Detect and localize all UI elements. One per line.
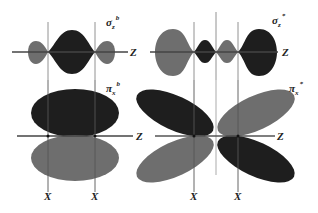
x-axis-label-left: X xyxy=(43,190,52,202)
lobe-gray-bottom xyxy=(31,135,119,181)
orbital-label: σz* xyxy=(272,12,286,29)
x-axis-label-left: X xyxy=(189,190,198,202)
panel-pi-antibonding: Z πx* X X xyxy=(130,80,304,202)
molecular-orbital-diagram: Z σzb Z σz* Z πxb X X xyxy=(0,0,318,213)
panel-pi-bonding: Z πxb X X xyxy=(17,80,143,202)
orbital-label: πxb xyxy=(106,80,121,97)
panel-sigma-antibonding: Z σz* xyxy=(150,12,289,80)
z-axis-label: Z xyxy=(281,46,289,58)
panel-sigma-bonding: Z σzb xyxy=(12,14,137,80)
z-axis-label: Z xyxy=(135,130,143,142)
lobe-dark-top xyxy=(31,89,119,137)
x-axis-label-right: X xyxy=(90,190,99,202)
z-axis-label: Z xyxy=(129,46,137,58)
z-axis-label: Z xyxy=(276,130,284,142)
x-axis-label-right: X xyxy=(233,190,242,202)
orbital-label: σzb xyxy=(106,14,120,31)
